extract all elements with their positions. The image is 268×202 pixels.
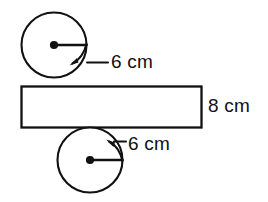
- bottom-circle-radius-label: 6 cm: [128, 134, 170, 153]
- rectangle-height-label: 8 cm: [208, 96, 250, 115]
- geometry-diagram: 6 cm 6 cm 8 cm: [0, 0, 268, 202]
- rectangle-bar: [22, 87, 202, 128]
- bottom-circle-center-dot: [86, 156, 94, 164]
- top-circle-center-dot: [50, 41, 58, 49]
- top-circle-radius-label: 6 cm: [111, 52, 153, 71]
